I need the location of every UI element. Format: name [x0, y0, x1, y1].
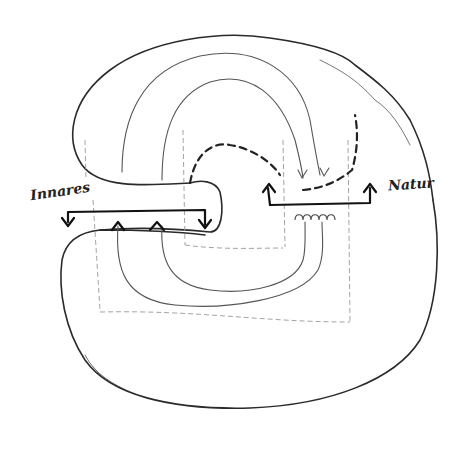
natur-bar [268, 188, 370, 205]
natur-label: Natur [387, 174, 434, 193]
sketch-canvas [0, 0, 471, 450]
flow-loop-bottom-outer [118, 222, 323, 306]
guide-line [283, 140, 285, 247]
dashed-arch [190, 144, 280, 183]
lower-lobe-outline-sketch [85, 355, 130, 392]
guide-line [183, 130, 185, 245]
guide-line [85, 140, 86, 180]
flow-loop-top-outer [122, 53, 320, 175]
flow-loop-top-inner [162, 79, 303, 180]
upper-lobe-outline [73, 35, 433, 200]
coil [295, 215, 335, 220]
guide-line [348, 140, 350, 322]
guide-line [100, 312, 350, 322]
guide-line [93, 200, 100, 310]
natur-arrow-down-2 [320, 168, 329, 176]
guide-line [185, 245, 283, 248]
